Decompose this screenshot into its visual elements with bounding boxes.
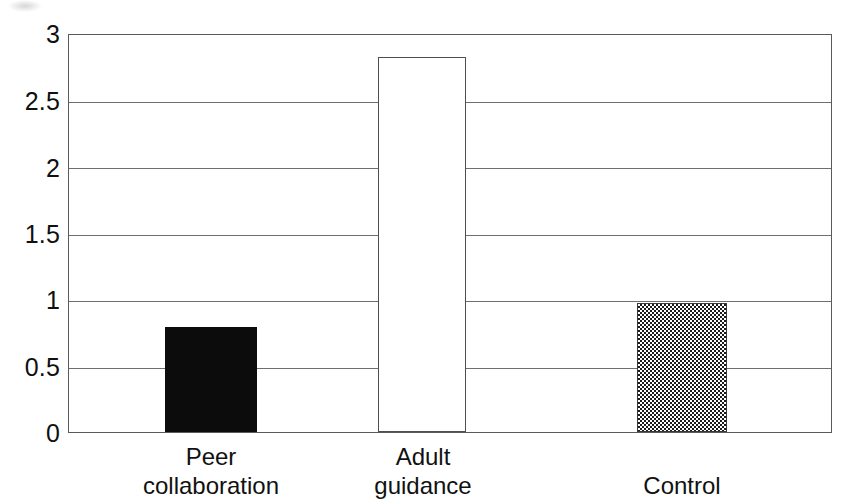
plot-area [68,34,832,433]
y-tick-label-0: 0 [2,421,60,446]
y-axis-tick-labels: 3 2.5 2 1.5 1 0.5 0 [0,34,60,433]
scan-artifact-top-left [8,0,42,12]
y-tick-label-3: 3 [2,22,60,47]
x-tick-label-adult-guidance: Adult guidance [373,442,473,500]
bar-adult-guidance [378,57,466,432]
y-tick-label-2: 2 [2,156,60,181]
bar-peer-collaboration [165,327,257,432]
x-tick-label-peer-collaboration: Peer collaboration [131,442,291,500]
bar-chart-figure: 3 2.5 2 1.5 1 0.5 0 Peer collaboration A… [0,0,858,504]
y-tick-label-2-5: 2.5 [2,89,60,114]
x-tick-label-control: Control [632,471,732,500]
y-tick-label-0-5: 0.5 [2,355,60,380]
y-tick-label-1: 1 [2,288,60,313]
y-tick-label-1-5: 1.5 [2,222,60,247]
bar-control [637,303,727,432]
